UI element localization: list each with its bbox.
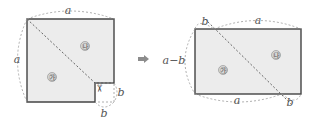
- piece-upper-label: ㉯: [82, 43, 89, 51]
- label-left-a: a: [14, 53, 21, 66]
- piece-lower-label: ㉮: [49, 74, 56, 82]
- label-top-a: a: [255, 14, 262, 27]
- label-bottom-a: a: [234, 94, 241, 107]
- right-figure: b a a−b a b ㉯ ㉮: [163, 14, 301, 109]
- label-top-a: a: [65, 4, 72, 17]
- label-corner-right-b: b: [117, 86, 124, 99]
- transform-arrow: [138, 55, 149, 63]
- label-bottom-b: b: [286, 96, 293, 109]
- piece-lower-label: ㉮: [220, 67, 227, 75]
- label-corner-bottom-b: b: [100, 107, 107, 119]
- left-figure: a a b b ㉯ ㉮ ✂: [14, 4, 125, 119]
- label-left-a-minus-b: a−b: [163, 54, 186, 67]
- scissors-icon: ✂: [94, 84, 105, 92]
- label-top-b: b: [201, 15, 208, 28]
- piece-upper-label: ㉯: [273, 52, 280, 60]
- arc-left: [185, 29, 195, 94]
- rearrangement-diagram: a a b b ㉯ ㉮ ✂ b a a−b a b ㉯ ㉮: [0, 0, 316, 119]
